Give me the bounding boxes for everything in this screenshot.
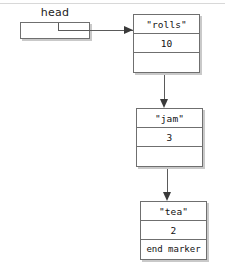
node-count-cell: 2 (141, 221, 206, 240)
node-next-cell (134, 53, 199, 72)
head-to-node1-arrowhead (124, 26, 133, 34)
node1-to-node2-arrowhead (160, 99, 168, 108)
node-next-cell (137, 147, 202, 166)
head-to-node1-line (58, 30, 134, 31)
list-node: "jam" 3 (136, 108, 203, 167)
node-count-cell: 3 (137, 128, 202, 147)
node-data-cell: "jam" (137, 109, 202, 128)
node-data-cell: "rolls" (134, 15, 199, 34)
top-divider-rule (0, 3, 225, 4)
list-node: "rolls" 10 (133, 14, 200, 73)
node-count-cell: 10 (134, 34, 199, 53)
node2-to-node3-arrowhead (163, 192, 171, 201)
list-node: "tea" 2 end marker (140, 201, 207, 260)
node-data-cell: "tea" (141, 202, 206, 221)
linked-list-diagram: head "rolls" 10 "jam" 3 "tea" 2 end mark… (0, 0, 225, 267)
head-label: head (20, 7, 90, 19)
node-end-marker-cell: end marker (141, 240, 206, 259)
